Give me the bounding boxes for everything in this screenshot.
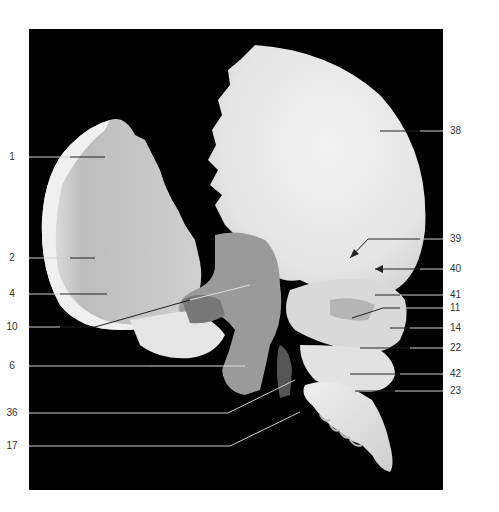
label-40: 40	[450, 264, 461, 274]
label-42: 42	[450, 369, 461, 379]
label-41: 41	[450, 290, 461, 300]
label-11: 11	[450, 303, 460, 313]
label-23: 23	[450, 386, 461, 396]
label-4: 4	[0, 289, 24, 299]
label-17: 17	[0, 441, 24, 451]
pterygoid-process	[277, 345, 292, 398]
specimen-illustration	[0, 0, 499, 512]
label-1: 1	[0, 152, 24, 162]
maxilla	[304, 382, 393, 473]
label-10: 10	[0, 322, 24, 332]
label-39: 39	[450, 234, 461, 244]
label-2: 2	[0, 253, 24, 263]
label-22: 22	[450, 343, 461, 353]
label-38: 38	[450, 126, 461, 136]
label-6: 6	[0, 361, 24, 371]
label-36: 36	[0, 408, 24, 418]
label-14: 14	[450, 323, 461, 333]
